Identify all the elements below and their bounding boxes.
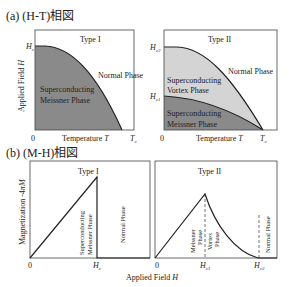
normal-phase-label: Normal Phase <box>119 206 126 243</box>
x-tick-tc: Tc <box>130 134 137 144</box>
x-tick-zero: 0 <box>31 134 35 143</box>
panel-a-type1: Type I Normal Phase Superconducting Meis… <box>17 30 144 144</box>
x-tick-zero: 0 <box>28 261 32 270</box>
heading-a: (a) (H-T)相図 <box>6 9 74 23</box>
meissner-label: Meissner Phase <box>167 120 217 129</box>
panel-b-type2: Type II Meissner Phase Vortex Phase Norm… <box>155 161 277 271</box>
type-label: Type I <box>78 167 99 176</box>
phase-label: Phase <box>213 232 220 247</box>
meissner-label: Meissner Phase <box>40 96 90 105</box>
sc-meissner-label: Superconducting <box>167 109 221 118</box>
x-tick-hc1: Hc1 <box>199 261 211 271</box>
y-axis-label: Magnetization -4πM <box>18 178 27 245</box>
meissner-short-label: Meissner <box>189 228 196 253</box>
sc-vortex-label: Superconducting <box>167 76 221 85</box>
x-tick-hc2: Hc2 <box>253 261 265 271</box>
sc-label: Superconducting <box>78 210 85 255</box>
x-tick-tc: Tc <box>260 134 267 144</box>
sc-label: Superconducting <box>40 85 94 94</box>
phase-label: Phase <box>196 230 203 245</box>
y-tick-hc1: Hc1 <box>149 92 161 102</box>
y-tick-hc2: Hc2 <box>149 43 161 53</box>
x-tick-zero: 0 <box>160 134 164 143</box>
heading-b: (b) (M-H)相図 <box>6 146 78 160</box>
y-tick-hc: Hc <box>25 42 35 52</box>
x-tick-zero: 0 <box>155 261 159 270</box>
x-axis-label: Temperature T <box>196 134 243 143</box>
vortex-label: Vortex Phase <box>167 86 209 95</box>
type-label: Type II <box>198 167 222 176</box>
normal-phase-label: Normal Phase <box>264 216 271 253</box>
type-label: Type I <box>80 35 101 44</box>
shared-x-axis-label: Applied Field H <box>126 273 179 282</box>
type-label: Type II <box>208 35 232 44</box>
x-axis-label: Temperature T <box>62 134 109 143</box>
phase-diagram-figure: (a) (H-T)相図 Type I Normal Phase Supercon… <box>0 0 292 287</box>
meissner-label: Meissner Phase <box>86 214 93 255</box>
panel-a-type2: Type II Normal Phase Superconducting Vor… <box>149 30 277 144</box>
vortex-short-label: Vortex <box>206 232 213 250</box>
y-axis-label: Applied Field H <box>17 59 26 112</box>
normal-phase-label: Normal Phase <box>98 71 144 80</box>
panel-b-type1: Type I Superconducting Meissner Phase No… <box>18 161 150 271</box>
x-tick-hc: Hc <box>92 261 102 271</box>
normal-phase-label: Normal Phase <box>228 67 274 76</box>
